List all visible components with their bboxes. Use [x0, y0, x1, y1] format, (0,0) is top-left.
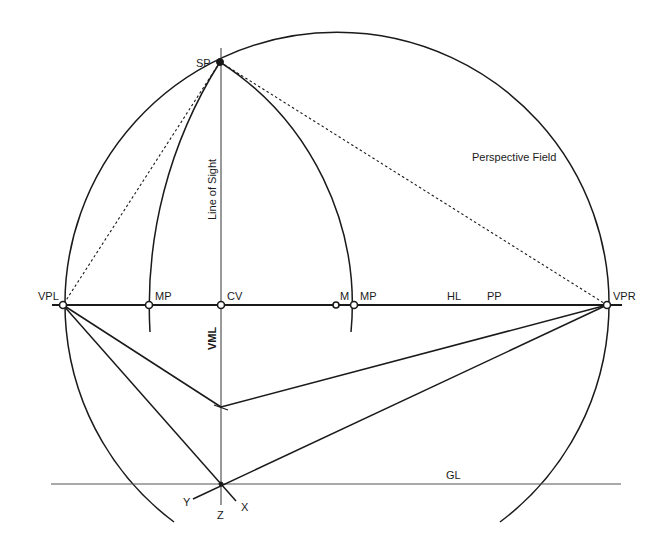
m-point	[333, 302, 339, 308]
mp-left-label: MP	[155, 290, 172, 302]
hl-label: HL	[447, 290, 461, 302]
vpr-label: VPR	[613, 290, 636, 302]
cv-point	[218, 302, 225, 309]
pp-label: PP	[487, 290, 502, 302]
cv-label: CV	[227, 290, 243, 302]
vml-label: VML	[206, 327, 218, 351]
vpr-point	[604, 302, 611, 309]
axis-y-label: Y	[183, 496, 191, 508]
gl-origin-point	[219, 482, 223, 486]
axis-x-label: X	[241, 501, 249, 513]
mp-left-point	[146, 302, 153, 309]
sp-label: SP	[196, 57, 211, 69]
vpl-point	[60, 302, 67, 309]
line-of-sight-label: Line of Sight	[206, 159, 218, 220]
perspective-field-label: Perspective Field	[472, 151, 556, 163]
perspective-field-circle	[65, 32, 609, 522]
sp-to-vpl-dashed-line	[63, 62, 220, 305]
perspective-diagram: SP VPL VPR MP CV M MP HL PP GL Perspecti…	[0, 0, 668, 550]
sp-point	[217, 59, 224, 66]
mp-right-point	[351, 302, 358, 309]
sp-to-vpr-dashed-line	[220, 62, 607, 305]
vpr-to-vml-cross-line	[221, 305, 607, 407]
vpr-to-y-axis-line	[193, 305, 607, 499]
mp-right-label: MP	[360, 290, 377, 302]
axis-z-label: Z	[217, 509, 224, 521]
vpl-label: VPL	[38, 290, 59, 302]
vpl-to-vml-cross-line	[63, 305, 221, 407]
m-label: M	[340, 290, 349, 302]
gl-label: GL	[446, 469, 461, 481]
